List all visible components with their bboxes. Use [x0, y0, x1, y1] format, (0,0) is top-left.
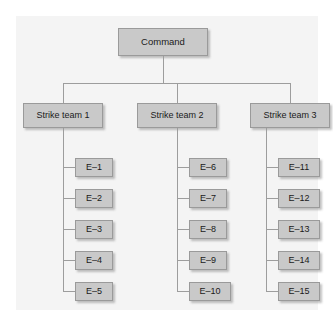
- node-e-10[interactable]: E–10: [189, 282, 231, 301]
- connector-stub-3-5: [266, 291, 278, 292]
- node-e-4[interactable]: E–4: [75, 251, 113, 270]
- connector-bus-drop-2: [177, 83, 178, 103]
- node-e-11[interactable]: E–11: [278, 158, 320, 177]
- node-strike-team-2[interactable]: Strike team 2: [137, 103, 217, 128]
- connector-stub-2-4: [177, 260, 189, 261]
- connector-stub-3-1: [266, 167, 278, 168]
- node-e-12[interactable]: E–12: [278, 189, 320, 208]
- node-e-13[interactable]: E–13: [278, 220, 320, 239]
- connector-stub-2-2: [177, 198, 189, 199]
- connector-stub-3-3: [266, 229, 278, 230]
- diagram-panel: [16, 16, 318, 310]
- node-command[interactable]: Command: [118, 28, 208, 56]
- node-e-14[interactable]: E–14: [278, 251, 320, 270]
- connector-spine-3: [266, 128, 267, 291]
- org-chart-diagram: Command Strike team 1 Strike team 2 Stri…: [0, 0, 333, 332]
- connector-stub-2-1: [177, 167, 189, 168]
- connector-spine-2: [177, 128, 178, 291]
- connector-stub-1-4: [63, 260, 75, 261]
- connector-stub-3-2: [266, 198, 278, 199]
- node-e-7[interactable]: E–7: [189, 189, 227, 208]
- node-e-6[interactable]: E–6: [189, 158, 227, 177]
- node-e-2[interactable]: E–2: [75, 189, 113, 208]
- connector-stub-1-3: [63, 229, 75, 230]
- node-e-5[interactable]: E–5: [75, 282, 113, 301]
- connector-bus-drop-1: [63, 83, 64, 103]
- connector-stub-1-1: [63, 167, 75, 168]
- connector-stub-1-5: [63, 291, 75, 292]
- connector-stub-1-2: [63, 198, 75, 199]
- connector-root-drop: [163, 56, 164, 83]
- node-e-1[interactable]: E–1: [75, 158, 113, 177]
- connector-stub-2-5: [177, 291, 189, 292]
- connector-bus-drop-3: [290, 83, 291, 103]
- node-strike-team-1[interactable]: Strike team 1: [23, 103, 103, 128]
- connector-stub-2-3: [177, 229, 189, 230]
- node-e-15[interactable]: E–15: [278, 282, 320, 301]
- node-e-9[interactable]: E–9: [189, 251, 227, 270]
- connector-spine-1: [63, 128, 64, 291]
- node-e-8[interactable]: E–8: [189, 220, 227, 239]
- connector-stub-3-4: [266, 260, 278, 261]
- node-strike-team-3[interactable]: Strike team 3: [250, 103, 330, 128]
- node-e-3[interactable]: E–3: [75, 220, 113, 239]
